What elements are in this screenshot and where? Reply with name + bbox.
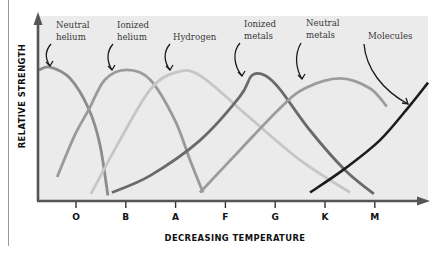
x-tick-label-f: F [222, 212, 228, 222]
plot-panel [38, 16, 428, 201]
x-tick-label-g: G [272, 212, 279, 222]
x-tick-label-k: K [322, 212, 330, 222]
x-tick-label-b: B [122, 212, 129, 222]
y-axis-title: RELATIVE STRENGTH [17, 44, 27, 148]
label-molecules: Molecules [368, 31, 412, 41]
label-hydrogen: Hydrogen [173, 32, 217, 42]
spectral-line-strength-chart: NeutralheliumIonizedheliumHydrogenIonize… [0, 0, 442, 255]
x-axis-title: DECREASING TEMPERATURE [165, 233, 306, 243]
x-tick-label-m: M [370, 212, 379, 222]
x-ticks-group: OBAFGKM [72, 202, 379, 222]
x-tick-label-a: A [172, 212, 179, 222]
x-tick-label-o: O [72, 212, 80, 222]
